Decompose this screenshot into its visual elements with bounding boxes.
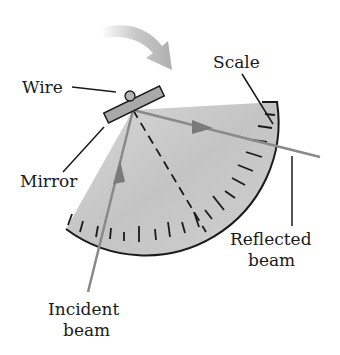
scale-label: Scale xyxy=(213,52,260,72)
mirror-label: Mirror xyxy=(20,171,78,191)
wire-label: Wire xyxy=(22,77,63,97)
rotation-arrow-icon xyxy=(100,25,172,70)
wire-bead xyxy=(125,91,135,101)
incident-beam-label-line1: Incident xyxy=(48,299,120,319)
optical-lever-diagram: Wire Mirror Scale Reflected beam Inciden… xyxy=(0,0,340,355)
reflected-beam-label-line1: Reflected xyxy=(230,229,312,249)
reflected-beam-label-line2: beam xyxy=(248,250,295,270)
incident-beam-label-line2: beam xyxy=(63,320,110,340)
